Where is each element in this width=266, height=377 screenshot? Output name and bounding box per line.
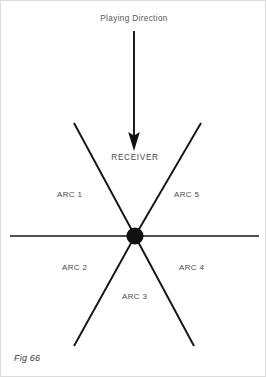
filled-circle-node-icon (126, 227, 143, 244)
arc-1-label: ARC 1 (57, 191, 82, 199)
ray-upper-left (74, 123, 135, 236)
figure-container: Playing Direction RECEIVER ARC 1 ARC 2 A… (0, 0, 266, 377)
arc-2-label: ARC 2 (62, 264, 87, 272)
ray-lower-right (135, 236, 194, 346)
arc-3-label: ARC 3 (122, 293, 147, 301)
figure-caption: Fig 66 (14, 353, 40, 363)
arc-4-label: ARC 4 (179, 264, 204, 272)
ray-lower-left (74, 236, 135, 346)
arc-diagram-svg (1, 1, 266, 377)
ray-upper-right (135, 123, 201, 236)
arc-5-label: ARC 5 (174, 191, 199, 199)
playing-direction-label: Playing Direction (100, 15, 167, 23)
receiver-label: RECEIVER (111, 154, 158, 162)
